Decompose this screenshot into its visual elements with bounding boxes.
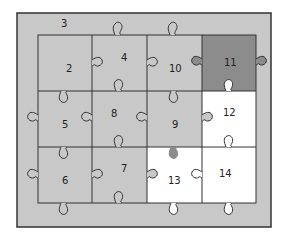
tab-icon	[137, 112, 147, 121]
tab-icon	[224, 80, 232, 91]
piece-label-10: 10	[169, 63, 182, 74]
tab-icon	[147, 57, 157, 66]
tab-icon	[147, 169, 157, 178]
tab-icon	[59, 147, 67, 158]
tab-icon	[28, 169, 38, 178]
piece-label-8: 8	[111, 108, 117, 119]
tab-icon	[192, 56, 202, 65]
piece-label-7: 7	[121, 163, 127, 174]
tab-icon	[169, 203, 177, 214]
tab-icon	[92, 57, 102, 66]
piece-label-11: 11	[224, 57, 237, 68]
piece-label-9: 9	[172, 119, 178, 130]
tab-icon	[28, 112, 38, 121]
piece-label-12: 12	[223, 107, 236, 118]
piece-label-14: 14	[219, 168, 232, 179]
tab-icon	[224, 203, 232, 214]
tab-icon	[192, 169, 202, 178]
piece-label-13: 13	[168, 175, 181, 186]
tab-icon	[59, 203, 67, 214]
piece-label-5: 5	[62, 119, 68, 130]
tab-icon	[114, 136, 122, 147]
tab-icon	[114, 80, 122, 91]
tab-icon	[256, 56, 266, 65]
puzzle-diagram: 3 2 4 10 11 5 8 9 12 6 7 13 14	[0, 0, 293, 241]
tab-icon	[169, 91, 177, 102]
piece-label-2: 2	[66, 63, 72, 74]
tab-icon	[92, 169, 102, 178]
tab-icon	[59, 91, 67, 102]
tab-icon	[82, 112, 92, 121]
tab-icon	[224, 136, 232, 147]
tab-icon	[202, 112, 212, 121]
tab-icon	[169, 147, 177, 158]
piece-label-6: 6	[62, 175, 68, 186]
frame-label: 3	[61, 18, 67, 29]
piece-label-4: 4	[121, 52, 127, 63]
tab-icon	[114, 192, 122, 203]
